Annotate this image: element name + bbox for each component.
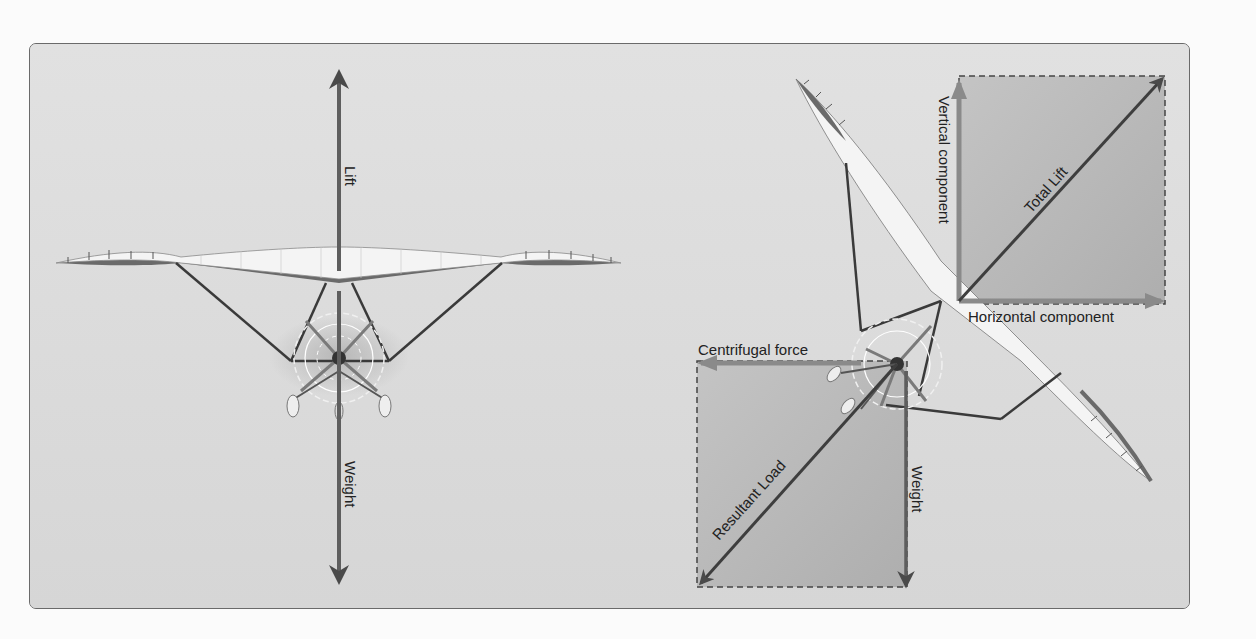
centrifugal-force-label: Centrifugal force bbox=[698, 341, 808, 358]
lift-label: Lift bbox=[342, 166, 359, 187]
horizontal-component-label: Horizontal component bbox=[968, 308, 1115, 325]
diagram-canvas: Lift Weight bbox=[30, 44, 1189, 608]
weight-label-level: Weight bbox=[342, 461, 359, 508]
vertical-component-label: Vertical component bbox=[936, 96, 953, 224]
weight-label-banked: Weight bbox=[909, 466, 926, 513]
figure-panel: Lift Weight bbox=[29, 43, 1190, 609]
